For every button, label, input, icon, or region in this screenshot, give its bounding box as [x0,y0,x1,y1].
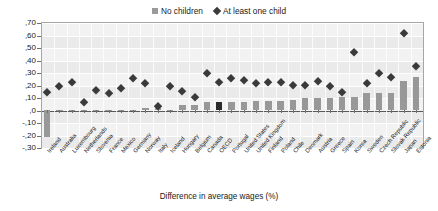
x-axis-tick-mark [170,110,171,113]
diamond-at-least-one-child [363,79,371,87]
chart-column[interactable] [324,22,336,149]
diamond-at-least-one-child [375,69,383,77]
x-axis-tick-mark [318,110,319,113]
bar-no-children [302,98,308,109]
diamond-at-least-one-child [55,82,63,90]
x-axis-tick-mark [133,110,134,113]
y-axis-tick-label: -,20 [22,132,36,140]
chart-column[interactable] [201,22,213,149]
diamond-at-least-one-child [412,62,420,70]
bar-no-children [413,77,419,110]
chart-column[interactable] [53,22,65,149]
chart-column[interactable] [176,22,188,149]
diamond-at-least-one-child [129,74,137,82]
chart-legend: No children At least one child [0,4,438,18]
y-axis-tick-label: ,20 [25,82,36,90]
diamond-at-least-one-child [166,82,174,90]
x-axis-tick-mark [256,110,257,113]
x-axis-tick-mark [244,110,245,113]
chart-column[interactable] [348,22,360,149]
bar-no-children [204,102,210,110]
chart-column[interactable] [164,22,176,149]
x-axis-tick-mark [330,110,331,113]
legend-item-no-children: No children [152,7,203,16]
bar-no-children [44,110,50,138]
bar-no-children [388,93,394,109]
x-axis-tick-mark [404,110,405,113]
diamond-at-least-one-child [252,79,260,87]
chart-column[interactable] [336,22,348,149]
diamond-at-least-one-child [400,29,408,37]
x-axis-tick-mark [145,110,146,113]
chart-column[interactable] [311,22,323,149]
chart-column[interactable] [41,22,53,149]
x-axis-tick-mark [84,110,85,113]
x-axis-labels: IrelandAustraliaLuxembourgNetherlandsSlo… [41,150,424,192]
bar-no-children [314,98,320,109]
bar-no-children [241,102,247,110]
x-axis-tick-mark [72,110,73,113]
bar-no-children [363,93,369,109]
chart-column[interactable] [225,22,237,149]
x-axis-tick-mark [96,110,97,113]
bar-no-children [400,81,406,110]
y-axis-tick-label: ,70 [25,19,36,27]
diamond-at-least-one-child [228,74,236,82]
diamond-at-least-one-child [314,77,322,85]
x-axis-tick-mark [268,110,269,113]
chart-column[interactable] [299,22,311,149]
x-axis-tick-mark [59,110,60,113]
chart-column[interactable] [238,22,250,149]
y-axis-tick-label: ,40 [25,57,36,65]
diamond-at-least-one-child [191,93,199,101]
x-axis-tick-mark [231,110,232,113]
chart-column[interactable] [373,22,385,149]
chart-column[interactable] [152,22,164,149]
bar-no-children [216,102,222,110]
y-axis: ,70,60,50,40,30,20,10,0-,10-,20-,30 [0,22,41,149]
x-axis-tick-mark [293,110,294,113]
chart-column[interactable] [213,22,225,149]
x-axis-tick-mark [391,110,392,113]
y-axis-tick-label: -,30 [22,144,36,152]
diamond-at-least-one-child [117,84,125,92]
diamond-at-least-one-child [301,81,309,89]
diamond-at-least-one-child [80,98,88,106]
x-axis-tick-mark [305,110,306,113]
diamond-marker-icon [213,7,221,15]
chart-column[interactable] [66,22,78,149]
x-axis-tick-mark [354,110,355,113]
bar-no-children [290,100,296,110]
square-marker-icon [152,8,158,14]
diamond-at-least-one-child [240,76,248,84]
bar-no-children [277,101,283,110]
bar-no-children [228,102,234,110]
y-axis-tick-label: -,10 [22,119,36,127]
chart-column[interactable] [127,22,139,149]
legend-item-at-least-one-child: At least one child [214,7,286,16]
x-axis-tick-mark [367,110,368,113]
x-axis-title: Difference in average wages (%) [0,192,438,201]
diamond-at-least-one-child [43,88,51,96]
diamond-at-least-one-child [289,81,297,89]
bar-no-children [339,97,345,110]
chart-column[interactable] [287,22,299,149]
x-axis-tick-mark [182,110,183,113]
chart-column[interactable] [115,22,127,149]
diamond-at-least-one-child [264,78,272,86]
x-axis-tick-mark [281,110,282,113]
diamond-at-least-one-child [326,82,334,90]
diamond-at-least-one-child [338,88,346,96]
x-axis-tick-mark [121,110,122,113]
diamond-at-least-one-child [178,87,186,95]
legend-label-at-least-one-child: At least one child [223,7,286,16]
diamond-at-least-one-child [105,89,113,97]
x-axis-tick-mark [219,110,220,113]
x-axis-tick-mark [342,110,343,113]
chart-column[interactable] [361,22,373,149]
y-axis-tick-label: ,0 [29,107,36,115]
bar-no-children [253,101,259,110]
x-axis-tick-mark [47,110,48,113]
chart-column[interactable] [139,22,151,149]
chart-column[interactable] [188,22,200,149]
